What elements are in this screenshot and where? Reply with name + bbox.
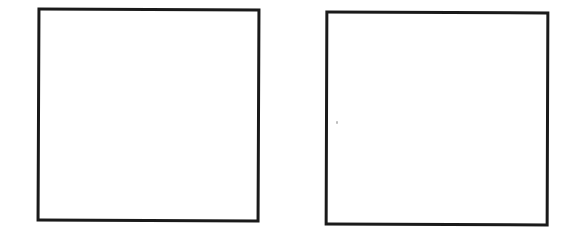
left-square [37, 8, 261, 223]
diagram-canvas [0, 0, 566, 233]
right-square [325, 11, 550, 227]
scan-speck [336, 121, 338, 124]
